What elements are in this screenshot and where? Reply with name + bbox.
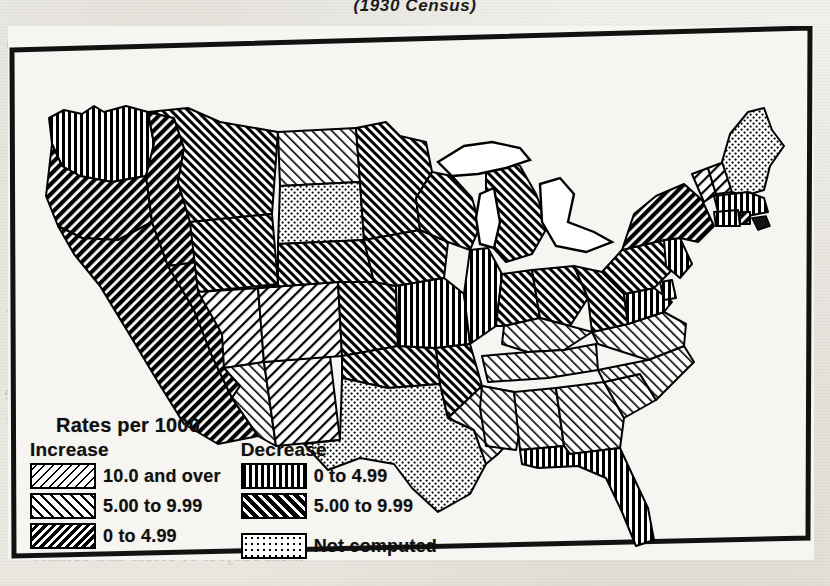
legend-title: Rates per 1000	[56, 414, 451, 437]
legend-swatch-increase-10-and-over	[30, 463, 96, 489]
legend-item-decrease-0-to-4.99[interactable]: 0 to 4.99	[241, 464, 437, 488]
legend-label-increase-10-and-over: 10.0 and over	[103, 466, 221, 487]
map-legend: Rates per 1000 Increase 10.0 and over 5.…	[30, 414, 451, 564]
legend-swatch-increase-0-to-4.99	[30, 523, 96, 549]
map-title: (1930 Census)	[0, 0, 830, 16]
state-ND	[278, 128, 360, 186]
state-SD	[278, 182, 364, 244]
legend-label-decrease-5-to-9.99: 5.00 to 9.99	[314, 496, 413, 517]
legend-swatch-decrease-5-to-9.99	[241, 493, 307, 519]
legend-item-increase-0-to-4.99[interactable]: 0 to 4.99	[30, 524, 221, 548]
legend-label-increase-5-to-9.99: 5.00 to 9.99	[103, 496, 202, 517]
state-IA	[364, 230, 448, 286]
state-CT	[714, 210, 740, 226]
legend-item-increase-5-to-9.99[interactable]: 5.00 to 9.99	[30, 494, 221, 518]
lake-michigan	[476, 188, 500, 248]
state-DE	[660, 280, 676, 300]
legend-header-decrease: Decrease	[241, 439, 437, 461]
legend-column-decrease: Decrease 0 to 4.99 5.00 to 9.99 Not comp…	[241, 439, 437, 564]
state-KS	[338, 282, 398, 356]
legend-column-increase: Increase 10.0 and over 5.00 to 9.99 0 to…	[30, 439, 221, 564]
state-WY	[190, 214, 278, 292]
legend-label-increase-0-to-4.99: 0 to 4.99	[103, 526, 177, 547]
state-CO	[258, 282, 342, 362]
legend-header-increase: Increase	[30, 439, 221, 461]
state-RI	[740, 212, 750, 224]
legend-item-increase-10-and-over[interactable]: 10.0 and over	[30, 464, 221, 488]
legend-swatch-not-computed	[241, 533, 307, 559]
legend-item-not-computed[interactable]: Not computed	[241, 534, 437, 558]
legend-label-decrease-0-to-4.99: 0 to 4.99	[314, 466, 388, 487]
legend-item-decrease-5-to-9.99[interactable]: 5.00 to 9.99	[241, 494, 437, 518]
legend-swatch-decrease-0-to-4.99	[241, 463, 307, 489]
legend-label-not-computed: Not computed	[314, 536, 437, 557]
legend-swatch-increase-5-to-9.99	[30, 493, 96, 519]
